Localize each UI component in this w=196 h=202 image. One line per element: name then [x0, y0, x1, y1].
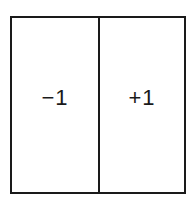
cell-positive: +1 — [100, 18, 184, 192]
cell-negative: −1 — [12, 18, 100, 192]
two-cell-diagram: −1 +1 — [10, 16, 186, 194]
cell-label-negative: −1 — [41, 85, 68, 111]
cell-label-positive: +1 — [128, 85, 155, 111]
